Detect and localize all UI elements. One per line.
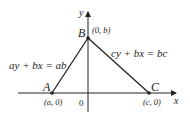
point-b (86, 36, 90, 40)
point-c-coord: (c, 0) (143, 97, 161, 107)
triangle-diagram: y x 0 B (0, b) A (a, 0) C (c, 0) ay + bx… (0, 0, 190, 117)
point-a-name: A (42, 80, 51, 94)
point-a (50, 91, 54, 95)
equation-bc: cy + bx = bc (111, 47, 167, 59)
y-axis-label: y (78, 7, 84, 18)
point-b-coord: (0, b) (92, 25, 111, 35)
equation-ab: ay + bx = ab (9, 59, 67, 71)
point-c-name: C (151, 80, 160, 94)
point-a-coord: (a, 0) (44, 97, 63, 107)
point-b-name: B (78, 26, 86, 40)
origin-label: 0 (79, 98, 84, 108)
x-axis-label: x (173, 95, 179, 106)
